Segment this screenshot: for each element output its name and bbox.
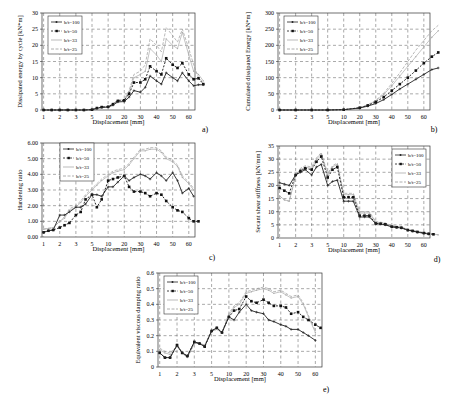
y-tick-label: 0 bbox=[271, 107, 274, 113]
x-tick-label: 50 bbox=[170, 114, 176, 120]
y-tick-label: 20 bbox=[268, 182, 274, 188]
legend-item-label: b/t=33 bbox=[64, 38, 78, 43]
x-tick-label: 60 bbox=[421, 114, 427, 120]
chart-d: 051015202530351235102030405060b/t=100b/t… bbox=[254, 143, 441, 264]
x-tick-label: 60 bbox=[186, 241, 192, 247]
legend-item-label: b/t=100 bbox=[300, 20, 316, 25]
y-tick-label: 0.6 bbox=[147, 270, 155, 276]
y-tick-label: 25 bbox=[32, 26, 38, 32]
y-tick-label: 35 bbox=[268, 143, 274, 149]
chart-b: 0501001502002503001235102030405060b/t=10… bbox=[244, 10, 440, 134]
x-tick-label: 2 bbox=[58, 241, 61, 247]
x-tick-label: 50 bbox=[170, 241, 176, 247]
x-tick-label: 60 bbox=[312, 371, 318, 377]
legend-item-label: b/t=25 bbox=[64, 47, 78, 52]
y-axis-label: Equivalent viscous damping ratio bbox=[134, 276, 141, 363]
x-tick-label: 1 bbox=[42, 114, 45, 120]
legend-item-label: b/t=25 bbox=[300, 47, 314, 52]
legend-item-label: b/t=33 bbox=[300, 38, 314, 43]
series-b-t-50 bbox=[278, 51, 439, 111]
legend-item-label: b/t=100 bbox=[64, 20, 80, 25]
x-axis-label: Displacement [mm] bbox=[93, 245, 145, 253]
x-tick-label: 40 bbox=[389, 114, 395, 120]
legend: b/t=100b/t=50b/t=33b/t=25 bbox=[284, 16, 318, 54]
legend-item-label: b/t=100 bbox=[180, 280, 196, 285]
legend: b/t=100b/t=50b/t=33b/t=25 bbox=[164, 276, 198, 314]
legend-item-label: b/t=50 bbox=[408, 162, 422, 167]
y-tick-label: 0.4 bbox=[147, 301, 155, 307]
x-tick-label: 5 bbox=[210, 371, 213, 377]
legend-item-label: b/t=25 bbox=[408, 180, 422, 185]
x-tick-label: 2 bbox=[176, 371, 179, 377]
y-tick-label: 100 bbox=[265, 75, 274, 81]
y-tick-label: 25 bbox=[268, 169, 274, 175]
x-tick-label: 1 bbox=[42, 241, 45, 247]
panel-label: d) bbox=[434, 255, 441, 264]
y-tick-label: 5.00 bbox=[28, 156, 39, 162]
x-tick-label: 50 bbox=[405, 114, 411, 120]
x-axis-label: Displacement [mm] bbox=[328, 246, 380, 254]
x-tick-label: 3 bbox=[193, 371, 196, 377]
y-tick-label: 30 bbox=[32, 10, 38, 16]
series-b-t-50 bbox=[42, 175, 199, 234]
y-tick-label: 30 bbox=[268, 156, 274, 162]
y-tick-label: 2.00 bbox=[28, 203, 39, 209]
y-tick-label: 0.2 bbox=[147, 333, 155, 339]
series-b-t-100 bbox=[278, 67, 439, 112]
chart-a: 0510152025301235102030405060b/t=100b/t=5… bbox=[16, 10, 208, 134]
x-axis-label: Displacement [mm] bbox=[328, 118, 380, 126]
y-tick-label: 10 bbox=[32, 75, 38, 81]
y-tick-label: 5 bbox=[271, 222, 274, 228]
legend-item-label: b/t=25 bbox=[76, 174, 90, 179]
series-b-t-50 bbox=[42, 57, 204, 111]
legend: b/t=100b/t=50b/t=33b/t=25 bbox=[392, 149, 426, 187]
legend-item-label: b/t=50 bbox=[180, 289, 194, 294]
x-tick-label: 60 bbox=[186, 114, 192, 120]
legend-item-label: b/t=25 bbox=[180, 307, 194, 312]
y-tick-label: 1.00 bbox=[28, 218, 39, 224]
panel-label: e) bbox=[323, 385, 330, 394]
legend-item-label: b/t=50 bbox=[64, 29, 78, 34]
x-tick-label: 3 bbox=[310, 114, 313, 120]
y-axis-label: Secant shear stiffness [kN/mm] bbox=[254, 151, 262, 233]
x-tick-label: 50 bbox=[295, 371, 301, 377]
y-tick-label: 50 bbox=[268, 91, 274, 97]
y-tick-label: 300 bbox=[265, 10, 274, 16]
panel-label: b) bbox=[431, 125, 438, 134]
x-tick-label: 2 bbox=[294, 114, 297, 120]
figure-canvas: 0510152025301235102030405060b/t=100b/t=5… bbox=[0, 0, 450, 399]
y-tick-label: 150 bbox=[265, 59, 274, 65]
y-tick-label: 250 bbox=[265, 26, 274, 32]
y-tick-label: 0 bbox=[151, 364, 154, 370]
y-tick-label: 3.00 bbox=[28, 187, 39, 193]
y-tick-label: 0 bbox=[271, 235, 274, 241]
y-axis-label: Dissipated energy by cycle [kN*m] bbox=[16, 15, 24, 107]
legend-item-label: b/t=33 bbox=[76, 165, 90, 170]
y-tick-label: 0.00 bbox=[28, 234, 39, 240]
x-tick-label: 3 bbox=[74, 241, 77, 247]
x-tick-label: 50 bbox=[405, 242, 411, 248]
legend-item-label: b/t=33 bbox=[408, 171, 422, 176]
y-axis-label: Cumulated dissipated Energy [kN*m] bbox=[244, 12, 252, 111]
x-tick-label: 3 bbox=[310, 242, 313, 248]
x-tick-label: 40 bbox=[278, 371, 284, 377]
x-tick-label: 1 bbox=[158, 371, 161, 377]
chart-c: 0.001.002.003.004.005.006.00123510203040… bbox=[16, 140, 215, 262]
x-tick-label: 1 bbox=[278, 114, 281, 120]
x-axis-label: Displacement [mm] bbox=[214, 375, 266, 383]
x-tick-label: 1 bbox=[278, 242, 281, 248]
y-tick-label: 15 bbox=[268, 196, 274, 202]
legend-item-label: b/t=50 bbox=[300, 29, 314, 34]
x-tick-label: 2 bbox=[58, 114, 61, 120]
panel-label: c) bbox=[209, 253, 216, 262]
y-tick-label: 0.1 bbox=[147, 348, 155, 354]
x-tick-label: 3 bbox=[74, 114, 77, 120]
y-tick-label: 0.3 bbox=[147, 317, 155, 323]
x-tick-label: 40 bbox=[389, 242, 395, 248]
y-axis-label: Hardening ratio bbox=[16, 170, 23, 211]
legend-item-label: b/t=100 bbox=[408, 153, 424, 158]
chart-e: 00.10.20.30.40.50.61235102030405060b/t=1… bbox=[134, 270, 329, 394]
x-axis-label: Displacement [mm] bbox=[93, 118, 145, 126]
y-tick-label: 200 bbox=[265, 42, 274, 48]
panel-label: a) bbox=[202, 125, 209, 134]
